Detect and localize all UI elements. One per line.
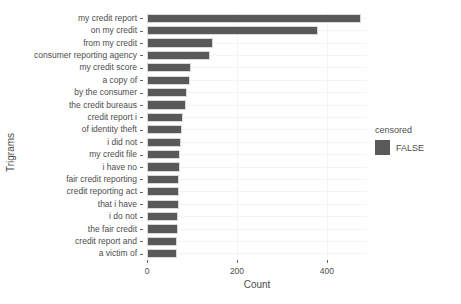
x-axis-tick-label: 0 [145, 266, 150, 276]
bar [147, 175, 179, 184]
gridline-horizontal [147, 241, 367, 242]
gridline-horizontal [147, 191, 367, 192]
y-axis-tick-mark [140, 130, 143, 131]
y-axis-tick-label: fair credit reporting [66, 173, 137, 186]
y-axis-tick-label: credit report i [87, 111, 137, 124]
bar [147, 187, 179, 196]
y-axis-tick-mark [140, 18, 143, 19]
x-axis-tick-label: 200 [230, 266, 244, 276]
legend-title: censored [375, 125, 459, 135]
bar [147, 224, 178, 233]
legend: censored FALSE [375, 125, 459, 155]
y-axis-tick-labels: my credit reporton my creditfrom my cred… [22, 12, 143, 260]
y-axis-tick-mark [140, 179, 143, 180]
gridline-vertical [237, 12, 238, 260]
y-axis-tick-label: the credit bureaus [69, 99, 137, 112]
x-axis-title: Count [147, 279, 367, 290]
gridline-horizontal [147, 216, 367, 217]
y-axis-tick-label: credit report and [75, 235, 137, 248]
bar [147, 100, 186, 109]
y-axis-tick-label: the fair credit [88, 223, 137, 236]
y-axis-tick-mark [140, 254, 143, 255]
bar [147, 200, 179, 209]
gridline-horizontal [147, 204, 367, 205]
y-axis-tick-mark [140, 142, 143, 143]
y-axis-tick-mark [140, 117, 143, 118]
x-axis-tick-label: 400 [320, 266, 334, 276]
y-axis-tick-mark [140, 229, 143, 230]
y-axis-tick-label: from my credit [83, 37, 137, 50]
y-axis-tick-mark [140, 43, 143, 44]
bar [147, 76, 190, 85]
y-axis-tick-label: my credit report [78, 12, 137, 25]
bar [147, 113, 183, 122]
y-axis-tick-mark [140, 241, 143, 242]
bar [147, 249, 177, 258]
y-axis-title-text: Trigrams [6, 132, 17, 171]
bar [147, 237, 177, 246]
bar [147, 38, 213, 47]
x-axis: 0200400 [147, 260, 367, 278]
bar [147, 125, 182, 134]
y-axis-tick-mark [140, 217, 143, 218]
legend-label: FALSE [396, 143, 424, 153]
bar [147, 14, 361, 23]
bar [147, 138, 181, 147]
y-axis-tick-label: i have no [103, 161, 138, 174]
y-axis-tick-mark [140, 80, 143, 81]
bar [147, 26, 318, 35]
y-axis-tick-label: my credit file [89, 148, 137, 161]
y-axis-tick-label: that i have [98, 198, 137, 211]
y-axis-tick-mark [140, 155, 143, 156]
y-axis-tick-mark [140, 192, 143, 193]
legend-entries: FALSE [375, 140, 459, 155]
plot-panel [147, 12, 367, 260]
y-axis-tick-label: i do not [109, 210, 137, 223]
gridline-vertical [147, 12, 148, 260]
y-axis-tick-mark [140, 68, 143, 69]
bar [147, 88, 187, 97]
y-axis-tick-label: of identity theft [82, 123, 137, 136]
y-axis-tick-mark [140, 204, 143, 205]
y-axis-tick-mark [140, 31, 143, 32]
y-axis-tick-mark [140, 55, 143, 56]
y-axis-tick-label: i did not [107, 136, 137, 149]
bar [147, 150, 180, 159]
gridline-vertical [327, 12, 328, 260]
y-axis-tick-label: my credit score [79, 61, 137, 74]
y-axis-tick-mark [140, 105, 143, 106]
y-axis-tick-label: consumer reporting agency [34, 49, 137, 62]
x-axis-tick-mark [237, 260, 238, 263]
x-axis-tick-mark [147, 260, 148, 263]
x-axis-tick-mark [327, 260, 328, 263]
gridline-horizontal [147, 179, 367, 180]
y-axis-tick-label: on my credit [91, 24, 137, 37]
y-axis-title: Trigrams [0, 0, 22, 304]
y-axis-tick-mark [140, 167, 143, 168]
bar [147, 51, 210, 60]
gridline-horizontal [147, 229, 367, 230]
legend-item[interactable]: FALSE [375, 140, 459, 155]
bar [147, 162, 180, 171]
y-axis-tick-label: credit reporting act [67, 185, 137, 198]
bar-chart: Trigrams my credit reporton my creditfro… [0, 0, 461, 304]
y-axis-tick-mark [140, 93, 143, 94]
bar [147, 63, 191, 72]
legend-swatch [375, 140, 390, 155]
gridline-horizontal [147, 167, 367, 168]
y-axis-tick-label: a victim of [99, 247, 137, 260]
y-axis-tick-label: a copy of [103, 74, 138, 87]
y-axis-tick-label: by the consumer [74, 86, 137, 99]
gridline-horizontal [147, 253, 367, 254]
bar [147, 212, 178, 221]
